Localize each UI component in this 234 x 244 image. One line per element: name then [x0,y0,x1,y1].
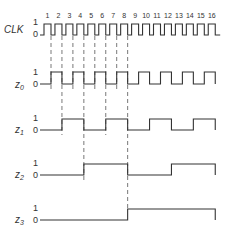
z0-waveform [40,72,215,84]
clk-level-high: 1 [33,17,38,27]
clock-pulse-number: 13 [175,12,183,19]
clock-pulse-number: 15 [197,12,205,19]
z2-level-low: 0 [33,170,38,180]
z3-level-high: 1 [33,203,38,213]
z1-row: z1 1 0 [14,113,215,136]
clock-pulse-number: 12 [164,12,172,19]
clock-pulse-number: 5 [89,12,93,19]
z0-level-low: 0 [33,79,38,89]
z2-level-high: 1 [33,158,38,168]
z3-waveform [40,209,215,220]
z2-row: z2 1 0 [14,158,215,181]
z2-waveform [40,164,215,175]
clock-pulse-number: 11 [153,12,160,19]
clock-pulse-number: 16 [208,12,216,19]
z0-label: z0 [14,79,24,91]
z1-level-low: 0 [33,125,38,135]
z2-label: z2 [14,169,24,181]
clock-pulse-number: 1 [46,12,50,19]
clock-pulse-number: 3 [67,12,71,19]
z0-row: z0 1 0 [14,67,215,91]
z3-level-low: 0 [33,215,38,225]
z1-waveform [40,119,215,130]
z0-level-high: 1 [33,67,38,77]
clk-level-low: 0 [33,29,38,39]
clock-pulse-number: 8 [122,12,126,19]
z1-label: z1 [14,124,24,136]
clk-label: CLK [4,24,25,35]
clock-pulse-number: 7 [111,12,115,19]
z3-row: z3 1 0 [14,203,215,226]
clock-pulse-number: 14 [186,12,194,19]
timing-diagram: 12345678910111213141516 CLK 1 0 z0 1 0 z… [0,0,234,244]
clock-pulse-number: 10 [142,12,150,19]
clk-waveform [40,24,220,35]
clock-pulse-number: 6 [100,12,104,19]
clock-pulse-numbers: 12345678910111213141516 [46,12,216,19]
z3-label: z3 [14,214,24,226]
clock-pulse-number: 9 [133,12,137,19]
z1-level-high: 1 [33,113,38,123]
clock-pulse-number: 2 [57,12,61,19]
clock-pulse-number: 4 [78,12,82,19]
